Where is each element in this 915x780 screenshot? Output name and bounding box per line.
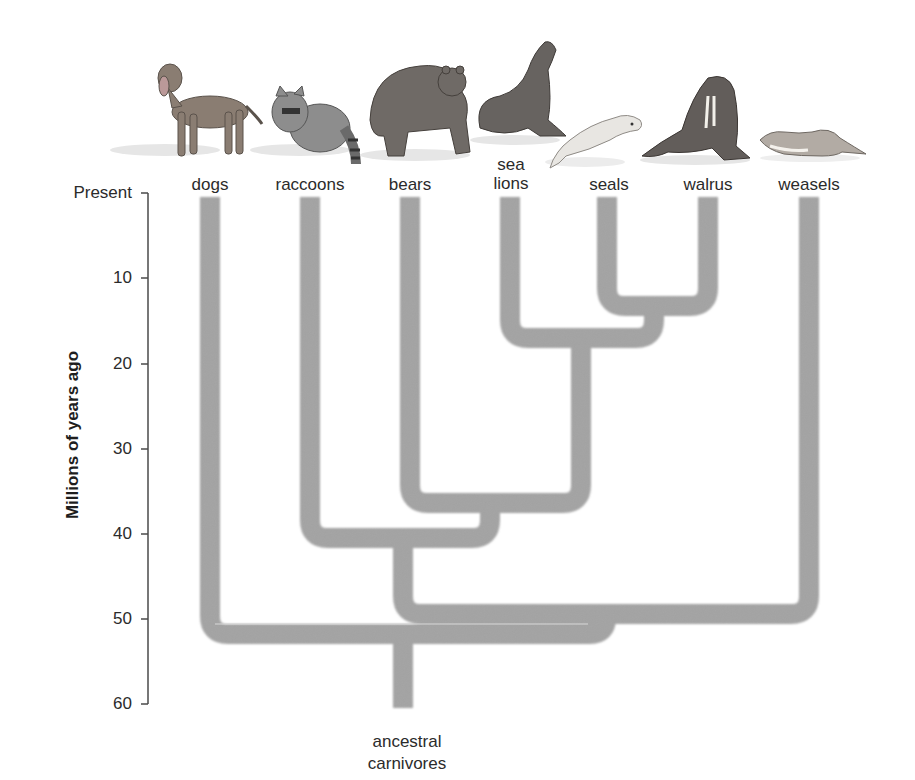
taxon-label-walrus: walrus — [683, 175, 732, 194]
taxon-label-dogs: dogs — [192, 175, 229, 194]
phylogeny-diagram: dogs raccoons bears sea lions seals walr… — [0, 0, 915, 780]
time-axis — [141, 193, 148, 704]
dog-illustration — [110, 64, 262, 156]
tick-label-present: Present — [52, 184, 132, 202]
branch-bears-join — [410, 197, 581, 503]
axis-title: Millions of years ago — [63, 351, 83, 519]
tick-label-10: 10 — [52, 269, 132, 287]
tree-graphic — [0, 0, 915, 780]
seal-illustration — [545, 115, 642, 168]
tick-label-60: 60 — [52, 695, 132, 713]
branch-seals-walrus — [607, 197, 708, 306]
taxon-label-raccoons: raccoons — [276, 175, 345, 194]
taxon-label-seals: seals — [589, 175, 629, 194]
sea-lion-illustration — [470, 42, 566, 145]
root-label-line2: carnivores — [368, 753, 446, 774]
tick-label-50: 50 — [52, 610, 132, 628]
taxon-label-weasels: weasels — [778, 175, 839, 194]
bear-illustration — [360, 66, 470, 161]
root-label-line1: ancestral — [373, 731, 442, 752]
raccoon-illustration — [250, 86, 360, 164]
taxon-label-sea-lions-line1: sea — [497, 155, 524, 174]
tick-label-40: 40 — [52, 525, 132, 543]
walrus-illustration — [640, 77, 750, 166]
weasel-illustration — [760, 130, 866, 162]
taxon-label-bears: bears — [389, 175, 432, 194]
branch-sealions-join — [510, 197, 654, 338]
taxon-label-sea-lions-line2: lions — [494, 174, 529, 193]
